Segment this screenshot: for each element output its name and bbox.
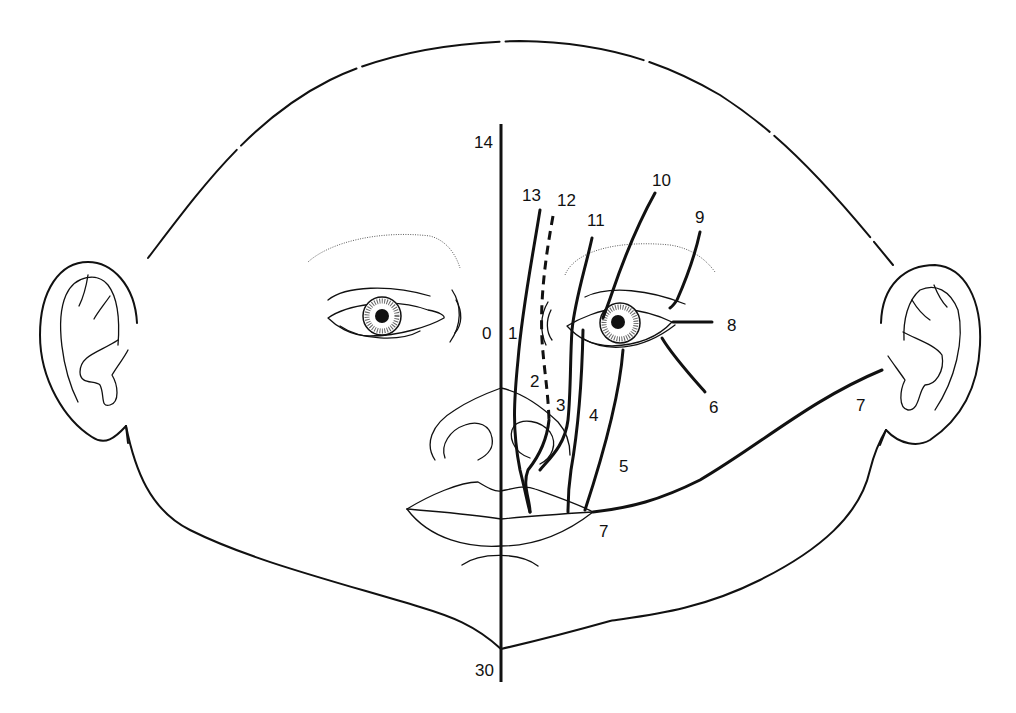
label-13: 13 (522, 186, 541, 205)
label-3: 3 (556, 396, 565, 415)
label-2: 2 (530, 372, 539, 391)
label-5: 5 (619, 457, 628, 476)
cleft-line-7 (593, 370, 882, 512)
label-7-mouth: 7 (599, 522, 608, 541)
cleft-line-6 (662, 338, 705, 392)
cleft-line-9 (670, 232, 700, 308)
jaw-outline (126, 426, 886, 649)
label-10: 10 (652, 171, 671, 190)
cleft-line-12-2 (542, 216, 553, 420)
cleft-line-5 (585, 350, 623, 510)
label-8: 8 (727, 316, 736, 335)
label-30: 30 (475, 661, 494, 680)
left-pupil (375, 309, 389, 323)
label-1: 1 (508, 324, 517, 343)
label-12: 12 (557, 191, 576, 210)
label-0: 0 (482, 324, 491, 343)
cleft-diagram: 14 30 0 1 2 3 4 5 6 7 7 8 9 10 11 12 13 (0, 0, 1016, 713)
cleft-labels: 14 30 0 1 2 3 4 5 6 7 7 8 9 10 11 12 13 (474, 133, 865, 680)
label-9: 9 (695, 208, 704, 227)
face-drawing: 14 30 0 1 2 3 4 5 6 7 7 8 9 10 11 12 13 (0, 0, 1016, 713)
head-outline (148, 41, 893, 265)
left-eyebrow (308, 234, 460, 268)
cleft-line-10 (603, 193, 655, 318)
cleft-lines (515, 193, 883, 512)
cleft-line-3 (526, 420, 549, 512)
label-11: 11 (587, 211, 605, 230)
label-4: 4 (589, 406, 598, 425)
right-pupil (611, 315, 625, 329)
label-6: 6 (709, 398, 718, 417)
cleft-line-13-1 (515, 210, 541, 512)
left-ear (40, 262, 137, 443)
label-7-cheek: 7 (856, 396, 865, 415)
right-ear (880, 265, 980, 445)
label-14: 14 (474, 133, 493, 152)
left-eye (328, 288, 461, 342)
